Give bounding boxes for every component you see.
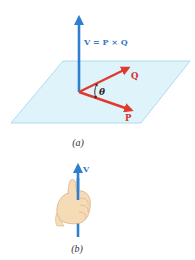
caption-a: (a) xyxy=(72,137,84,149)
theta-label: θ xyxy=(99,87,105,97)
p-label: P xyxy=(125,113,132,123)
cross-product-diagram: θ V = P × Q Q P (a) V (b) xyxy=(0,0,195,260)
figure-a: θ V = P × Q Q P (a) xyxy=(11,18,190,149)
right-hand-icon xyxy=(56,180,91,227)
v-label-b: V xyxy=(82,164,90,174)
figure-b: V (b) xyxy=(56,164,91,255)
caption-b: (b) xyxy=(71,243,83,255)
q-label: Q xyxy=(131,71,139,81)
v-equals-p-cross-q-label: V = P × Q xyxy=(83,37,128,47)
